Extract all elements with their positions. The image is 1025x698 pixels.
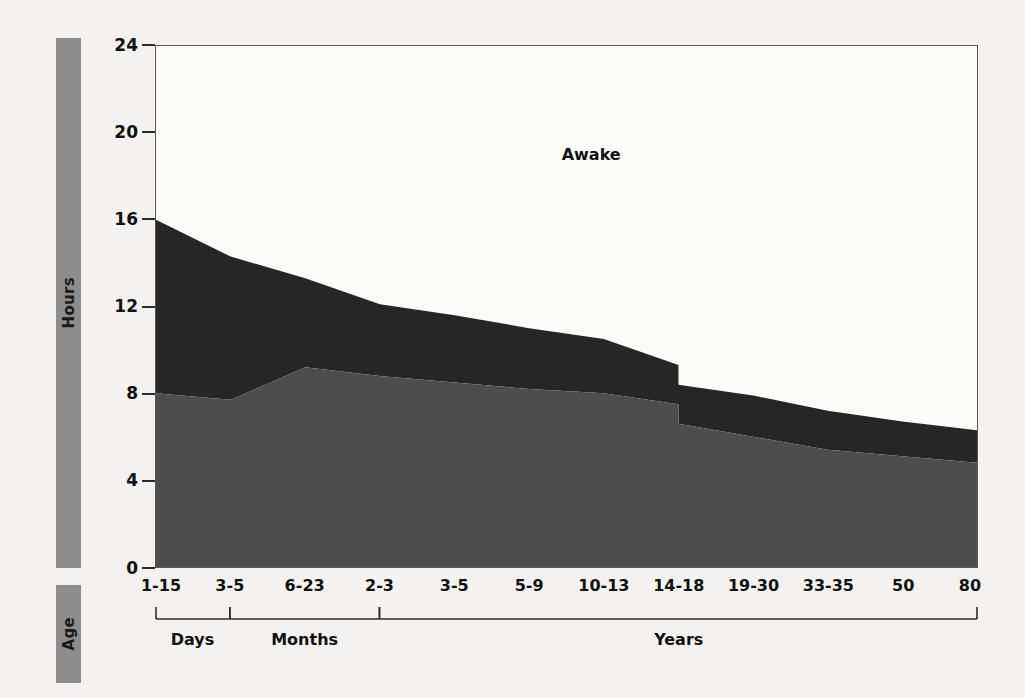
x-axis-group-label: Days	[171, 630, 215, 649]
x-axis-category-label: 5-9	[515, 576, 544, 595]
y-axis-tick-mark	[142, 567, 155, 569]
y-axis: 04812162024	[100, 45, 155, 568]
x-axis-category-label: 2-3	[365, 576, 394, 595]
x-axis-category-label: 19-30	[728, 576, 779, 595]
y-axis-title: Hours	[60, 277, 78, 328]
y-axis-tick-label: 4	[126, 472, 142, 489]
y-axis-title-bar: Hours	[56, 38, 81, 568]
x-axis-group-brackets	[155, 604, 978, 626]
x-axis-group-label: Months	[271, 630, 338, 649]
y-axis-tick-mark	[142, 218, 155, 220]
y-axis-tick-mark	[142, 131, 155, 133]
y-axis-tick-label: 20	[114, 124, 142, 141]
y-axis-tick-mark	[142, 44, 155, 46]
y-axis-tick-label: 24	[114, 37, 142, 54]
chart-figure: Hours Age 04812162024 Awake 1-153-56-232…	[0, 0, 1025, 698]
x-axis-category-label: 1-15	[141, 576, 181, 595]
y-axis-tick-label: 12	[114, 298, 142, 315]
x-axis-category-label: 80	[959, 576, 981, 595]
x-axis-category-label: 3-5	[215, 576, 244, 595]
x-axis-group-label: Years	[654, 630, 703, 649]
y-axis-tick-label: 16	[114, 211, 142, 228]
x-axis-category-label: 6-23	[285, 576, 325, 595]
y-axis-tick-label: 8	[126, 385, 142, 402]
y-axis-tick-mark	[142, 306, 155, 308]
x-axis-category-label: 14-18	[653, 576, 704, 595]
stacked-area-svg	[156, 46, 977, 567]
x-axis-category-label: 50	[892, 576, 914, 595]
plot-area	[155, 45, 978, 568]
x-axis-category-label: 3-5	[440, 576, 469, 595]
y-axis-tick-mark	[142, 480, 155, 482]
y-axis-tick-label: 0	[126, 560, 142, 577]
x-axis-category-label: 10-13	[578, 576, 629, 595]
x-axis-category-label: 33-35	[803, 576, 854, 595]
y-axis-tick-mark	[142, 393, 155, 395]
x-axis-category-labels: 1-153-56-232-33-55-910-1314-1819-3033-35…	[155, 576, 978, 602]
x-axis-group-labels: DaysMonthsYears	[155, 630, 978, 656]
x-axis-title: Age	[60, 617, 78, 650]
x-axis-title-bar: Age	[56, 585, 81, 683]
